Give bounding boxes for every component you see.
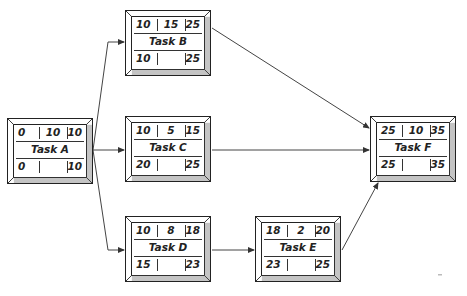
early-finish: 15	[185, 124, 200, 136]
duration: 10	[41, 126, 65, 138]
late-start: 15	[136, 258, 151, 270]
early-row: 0 10 10	[17, 126, 83, 141]
task-frame: 25 10 35 Task F 25 35	[370, 116, 456, 182]
late-start: 25	[381, 158, 396, 170]
early-start: 18	[266, 224, 281, 236]
edge-b-f	[212, 28, 369, 128]
late-row: 10 25	[135, 52, 201, 67]
task-name: Task E	[265, 241, 331, 256]
task-name: Task D	[135, 241, 201, 256]
late-finish: 10	[67, 160, 82, 172]
task-node-b[interactable]: 10 15 25 Task B 10 25	[125, 10, 211, 76]
task-name: Task A	[17, 143, 83, 158]
early-row: 10 5 15	[135, 124, 201, 139]
late-row: 25 35	[380, 158, 446, 173]
late-finish: 25	[185, 52, 200, 64]
early-row: 25 10 35	[380, 124, 446, 139]
late-row: 15 23	[135, 258, 201, 273]
task-frame: 18 2 20 Task E 23 25	[255, 216, 341, 282]
late-finish: 25	[315, 258, 330, 270]
task-frame: 0 10 10 Task A 0 10	[7, 118, 93, 184]
task-node-e[interactable]: 18 2 20 Task E 23 25	[255, 216, 341, 282]
duration: 2	[289, 224, 313, 236]
task-name: Task F	[380, 141, 446, 156]
early-row: 10 15 25	[135, 18, 201, 33]
early-start: 25	[381, 124, 396, 136]
task-node-c[interactable]: 10 5 15 Task C 20 25	[125, 116, 211, 182]
task-name: Task C	[135, 141, 201, 156]
edge-a-d	[93, 150, 124, 250]
early-row: 10 8 18	[135, 224, 201, 239]
late-row: 0 10	[17, 160, 83, 175]
duration: 8	[159, 224, 183, 236]
early-start: 10	[136, 224, 151, 236]
duration: 10	[404, 124, 428, 136]
edge-e-f	[342, 183, 378, 250]
late-start: 10	[136, 52, 151, 64]
late-start: 23	[266, 258, 281, 270]
early-finish: 35	[430, 124, 445, 136]
task-name: Task B	[135, 35, 201, 50]
task-frame: 10 5 15 Task C 20 25	[125, 116, 211, 182]
late-row: 20 25	[135, 158, 201, 173]
task-frame: 10 8 18 Task D 15 23	[125, 216, 211, 282]
early-start: 0	[18, 126, 25, 138]
early-start: 10	[136, 124, 151, 136]
late-finish: 23	[185, 258, 200, 270]
stray-mark	[438, 274, 442, 276]
late-finish: 35	[430, 158, 445, 170]
early-finish: 25	[185, 18, 200, 30]
task-node-f[interactable]: 25 10 35 Task F 25 35	[370, 116, 456, 182]
duration: 5	[159, 124, 183, 136]
duration: 15	[159, 18, 183, 30]
task-node-d[interactable]: 10 8 18 Task D 15 23	[125, 216, 211, 282]
early-row: 18 2 20	[265, 224, 331, 239]
early-start: 10	[136, 18, 151, 30]
early-finish: 10	[67, 126, 82, 138]
late-start: 20	[136, 158, 151, 170]
late-finish: 25	[185, 158, 200, 170]
edge-a-b	[93, 42, 124, 150]
task-node-a[interactable]: 0 10 10 Task A 0 10	[7, 118, 93, 184]
task-frame: 10 15 25 Task B 10 25	[125, 10, 211, 76]
early-finish: 18	[185, 224, 200, 236]
late-row: 23 25	[265, 258, 331, 273]
early-finish: 20	[315, 224, 330, 236]
late-start: 0	[18, 160, 25, 172]
